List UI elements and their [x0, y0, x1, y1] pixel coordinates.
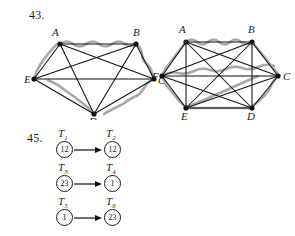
highlight-cycle-left [34, 42, 154, 115]
node-cell-t4: T4 1 [104, 162, 142, 196]
page-canvas: 43. [0, 0, 295, 236]
vertex-label-D: D [88, 115, 97, 120]
edge-C-E [186, 76, 278, 108]
table-row: T3 23 T4 1 [56, 162, 148, 196]
node-cell-t2: T2 12 [104, 128, 142, 162]
vertex-label-B: B [133, 26, 140, 38]
vertex-A [183, 39, 188, 44]
vertex-label-A: A [178, 23, 186, 35]
vertex-label-B: B [248, 23, 255, 35]
node-cell-t3: T3 23 [56, 162, 94, 196]
node-label-t4: T4 [106, 161, 116, 176]
figure-k5-left: A B E C D [24, 22, 164, 120]
vertex-A [57, 41, 62, 46]
node-cell-t1: T1 12 [56, 128, 94, 162]
node-value-t5: 1 [56, 209, 73, 226]
vertex-B [133, 41, 138, 46]
vertex-label-E: E [180, 110, 188, 122]
edge-A-C [186, 42, 278, 76]
arrow-t5-to-t6 [74, 214, 103, 222]
vertex-label-D: D [246, 110, 255, 122]
problem-number-43: 43. [29, 8, 45, 23]
node-value-t1: 12 [56, 141, 73, 158]
edge-B-E [34, 44, 136, 79]
table-row: T5 1 T6 23 [56, 196, 148, 230]
node-value-t2: 12 [104, 141, 121, 158]
node-value-t3: 23 [56, 175, 73, 192]
node-value-t4: 1 [104, 175, 121, 192]
figure-k6-right: A B F C E D [152, 18, 295, 123]
node-label-t1: T1 [58, 127, 68, 142]
vertex-label-E: E [24, 73, 31, 85]
vertex-C [275, 73, 280, 78]
vertex-E [31, 76, 36, 81]
edge-C-D [94, 79, 154, 114]
edge-B-F [162, 42, 252, 76]
edge-A-F [162, 42, 186, 76]
node-label-t3: T3 [58, 161, 68, 176]
edge-D-F [162, 76, 252, 108]
vertex-label-C: C [283, 70, 291, 82]
vertex-label-F: F [152, 70, 159, 82]
node-label-t5: T5 [58, 195, 68, 210]
vertex-label-A: A [51, 26, 59, 38]
figure-transition-table: T1 12 T2 12 T3 23 T4 1 [56, 128, 148, 232]
vertex-F [159, 73, 164, 78]
problem-number-45: 45. [27, 131, 43, 146]
edge-A-E [34, 44, 60, 79]
node-value-t6: 23 [104, 209, 121, 226]
arrow-t1-to-t2 [74, 146, 103, 154]
node-cell-t6: T6 23 [104, 196, 142, 230]
table-row: T1 12 T2 12 [56, 128, 148, 162]
node-label-t6: T6 [106, 195, 116, 210]
node-label-t2: T2 [106, 127, 116, 142]
vertex-B [249, 39, 254, 44]
node-cell-t5: T5 1 [56, 196, 94, 230]
edges-left [34, 44, 154, 114]
arrow-t3-to-t4 [74, 180, 103, 188]
